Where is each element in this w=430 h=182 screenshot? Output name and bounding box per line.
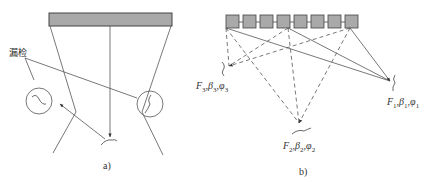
crack-bottom xyxy=(101,140,117,145)
beam-right-edge xyxy=(142,26,171,155)
panel-a xyxy=(25,13,172,155)
beam-to-f2 xyxy=(226,28,350,123)
defect-crack-right xyxy=(145,95,151,113)
defect-circle-left xyxy=(26,88,52,114)
beam-to-f1 xyxy=(226,28,390,81)
panel-b xyxy=(222,15,395,134)
leader-lines xyxy=(25,58,137,98)
caption-b: b) xyxy=(299,166,307,177)
focal-label-1: F1,β1,φ1 xyxy=(387,96,419,110)
crack-f2 xyxy=(292,128,311,134)
missed-detection-label: 漏检 xyxy=(9,46,27,59)
crack-f1 xyxy=(393,75,395,91)
probe-bar xyxy=(49,13,172,26)
defect-crack-left xyxy=(32,95,46,104)
array-probe xyxy=(226,15,358,28)
beam-left-edge xyxy=(50,26,76,153)
reflected-arrow xyxy=(60,104,105,139)
caption-a: a) xyxy=(103,160,111,171)
crack-f3 xyxy=(222,62,224,76)
focal-label-3: F3,β3,φ3 xyxy=(196,80,228,94)
focal-label-2: F2,β2,φ2 xyxy=(283,140,315,154)
